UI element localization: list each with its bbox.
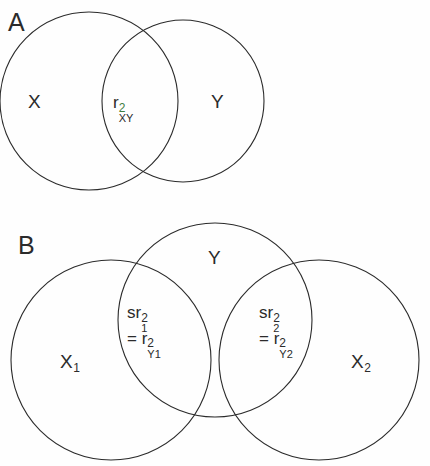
set-label-y-panel-b: Y bbox=[208, 248, 221, 267]
region-label-sr2-subscript: 2 bbox=[273, 322, 279, 335]
circle-panel-a-x bbox=[0, 12, 178, 190]
venn-circles-canvas bbox=[0, 0, 430, 466]
set-label-y-panel-b-base: Y bbox=[208, 247, 221, 268]
region-label-sr2-line2-subscript: Y2 bbox=[279, 348, 292, 361]
set-label-x-base: X bbox=[28, 91, 41, 112]
circle-panel-b-x2 bbox=[219, 260, 419, 460]
region-label-r2xy: r2XY bbox=[113, 93, 131, 114]
set-label-x1-subscript: 1 bbox=[73, 361, 80, 375]
set-label-x2: X2 bbox=[351, 352, 371, 374]
region-label-r2xy-subscript: XY bbox=[119, 112, 134, 125]
set-label-x: X bbox=[28, 92, 41, 111]
region-label-sr2-prefix: sr bbox=[259, 303, 273, 322]
set-label-x1-base: X bbox=[60, 351, 73, 372]
region-label-sr2: sr22 = r2Y2 bbox=[259, 303, 292, 349]
region-label-sr1-line2-subscript: Y1 bbox=[147, 348, 160, 361]
set-label-x2-base: X bbox=[351, 351, 364, 372]
set-label-x2-subscript: 2 bbox=[364, 361, 371, 375]
panel-label-b: B bbox=[18, 233, 35, 258]
region-label-sr1: sr21 = r2Y1 bbox=[127, 303, 160, 349]
region-label-sr1-prefix: sr bbox=[127, 303, 141, 322]
region-label-sr1-subscript: 1 bbox=[141, 322, 147, 335]
set-label-y: Y bbox=[211, 92, 224, 111]
set-label-y-base: Y bbox=[211, 91, 224, 112]
panel-label-a: A bbox=[8, 10, 25, 35]
set-label-x1: X1 bbox=[60, 352, 80, 374]
circle-panel-b-x1 bbox=[11, 260, 211, 460]
venn-diagram-figure: A X Y r2XY B X1 Y X2 sr21 = r2Y1 sr22 = … bbox=[0, 0, 430, 466]
